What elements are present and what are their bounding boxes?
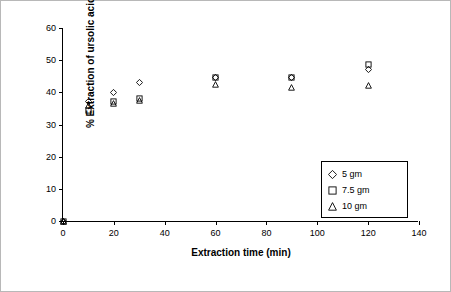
data-point-triangle [288,84,295,91]
legend-label: 7.5 gm [342,185,370,195]
y-axis: 0102030405060 [1,21,60,229]
x-tick-label: 40 [160,228,170,238]
data-point-triangle [212,81,219,88]
x-tick-mark [368,221,369,225]
data-point-square [288,74,295,81]
x-tick-label: 100 [310,228,325,238]
data-point-triangle [85,102,92,109]
y-tick-label: 10 [46,184,56,194]
plot-area: % Extraction of ursolic acid Extraction … [62,28,418,222]
diamond-icon [328,170,337,179]
y-tick-label: 0 [51,216,56,226]
y-tick-mark [59,60,63,61]
y-tick-mark [59,189,63,190]
x-tick-label: 80 [261,228,271,238]
square-icon [328,186,337,195]
triangle-icon [328,202,337,211]
data-point-triangle [136,97,143,104]
data-point-triangle [365,82,372,89]
x-tick-label: 120 [361,228,376,238]
y-tick-mark [59,28,63,29]
x-tick-mark [114,221,115,225]
y-tick-label: 30 [46,120,56,130]
y-tick-label: 50 [46,55,56,65]
data-point-square [365,61,372,68]
x-tick-mark [216,221,217,225]
y-tick-mark [59,157,63,158]
legend-item-10-gm: 10 gm [328,199,367,213]
y-tick-mark [59,92,63,93]
y-axis-title: % Extraction of ursolic acid [85,0,96,163]
x-tick-label: 60 [211,228,221,238]
data-point-triangle [60,218,67,225]
legend-item-7-5-gm: 7.5 gm [328,183,370,197]
y-tick-label: 20 [46,152,56,162]
x-tick-mark [317,221,318,225]
data-point-triangle [110,100,117,107]
y-tick-label: 40 [46,87,56,97]
x-axis-title: Extraction time (min) [63,247,419,258]
y-tick-label: 60 [46,23,56,33]
x-tick-mark [266,221,267,225]
x-tick-mark [165,221,166,225]
x-tick-label: 0 [60,228,65,238]
y-tick-mark [59,125,63,126]
x-tick-mark [419,221,420,225]
legend-label: 10 gm [342,201,367,211]
chart-container: 0102030405060 % Extraction of ursolic ac… [0,0,451,292]
data-point-diamond [110,89,117,96]
legend: 5 gm7.5 gm10 gm [321,161,408,218]
x-tick-label: 20 [109,228,119,238]
legend-label: 5 gm [342,169,362,179]
legend-item-5-gm: 5 gm [328,167,362,181]
data-point-diamond [136,79,143,86]
x-tick-label: 140 [411,228,426,238]
